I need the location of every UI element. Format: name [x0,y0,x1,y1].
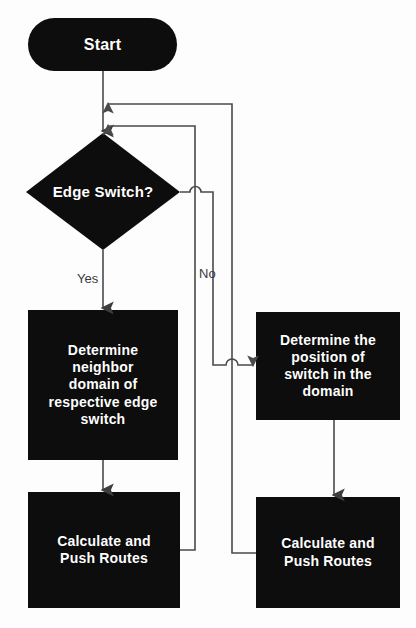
determine-position-node-shape [256,312,400,420]
calculate-right-node-shape [256,497,400,608]
calculate-left-node-shape [28,492,180,608]
flowchart-connectors [0,0,416,628]
determine-neighbor-node-shape [28,310,178,460]
flowchart-canvas: Start Edge Switch? Determine neighbor do… [0,0,416,628]
start-node-shape [28,18,177,71]
decision-node-shape [26,133,180,250]
connector-decision-no-to-position [180,187,253,366]
